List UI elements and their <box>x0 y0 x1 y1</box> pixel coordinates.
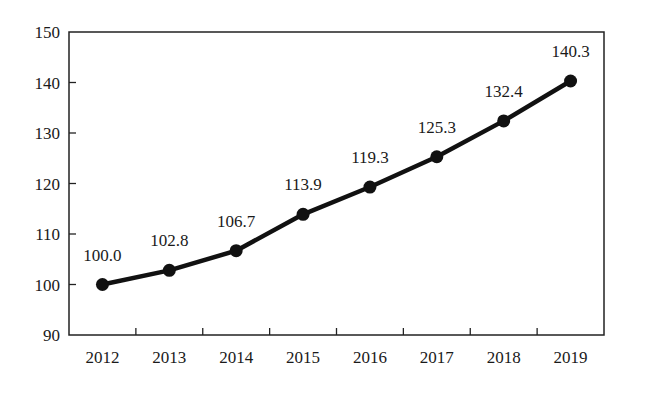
x-tick-label: 2014 <box>219 348 254 367</box>
data-point-marker <box>163 264 176 277</box>
x-tick-label: 2017 <box>420 348 455 367</box>
chart-canvas: 90100110120130140150 2012201320142015201… <box>0 0 652 397</box>
data-label: 102.8 <box>150 231 188 250</box>
data-point-marker <box>497 114 510 127</box>
data-label: 113.9 <box>284 175 322 194</box>
data-labels: 100.0102.8106.7113.9119.3125.3132.4140.3 <box>83 42 589 265</box>
data-point-marker <box>363 181 376 194</box>
x-tick-label: 2015 <box>286 348 320 367</box>
data-label: 106.7 <box>217 212 256 231</box>
series-line <box>102 81 570 285</box>
data-label: 132.4 <box>485 82 524 101</box>
data-point-marker <box>430 150 443 163</box>
data-point-marker <box>96 278 109 291</box>
x-tick-label: 2019 <box>554 348 588 367</box>
y-tick-label: 110 <box>35 225 60 244</box>
x-axis: 20122013201420152016201720182019 <box>85 328 587 367</box>
y-tick-label: 130 <box>35 124 61 143</box>
data-point-marker <box>297 208 310 221</box>
y-tick-label: 100 <box>35 276 61 295</box>
data-series <box>96 74 577 291</box>
x-tick-label: 2012 <box>85 348 119 367</box>
data-label: 119.3 <box>351 148 389 167</box>
plot-frame <box>69 32 604 335</box>
y-axis: 90100110120130140150 <box>35 23 77 345</box>
x-tick-label: 2018 <box>487 348 521 367</box>
data-point-marker <box>230 244 243 257</box>
line-chart: 90100110120130140150 2012201320142015201… <box>0 0 652 397</box>
y-tick-label: 140 <box>35 74 61 93</box>
y-tick-label: 90 <box>43 326 60 345</box>
data-label: 140.3 <box>551 42 589 61</box>
data-point-marker <box>564 74 577 87</box>
x-tick-label: 2013 <box>152 348 186 367</box>
y-tick-label: 150 <box>35 23 61 42</box>
y-tick-label: 120 <box>35 175 61 194</box>
data-label: 125.3 <box>418 118 456 137</box>
x-tick-label: 2016 <box>353 348 387 367</box>
data-label: 100.0 <box>83 246 121 265</box>
